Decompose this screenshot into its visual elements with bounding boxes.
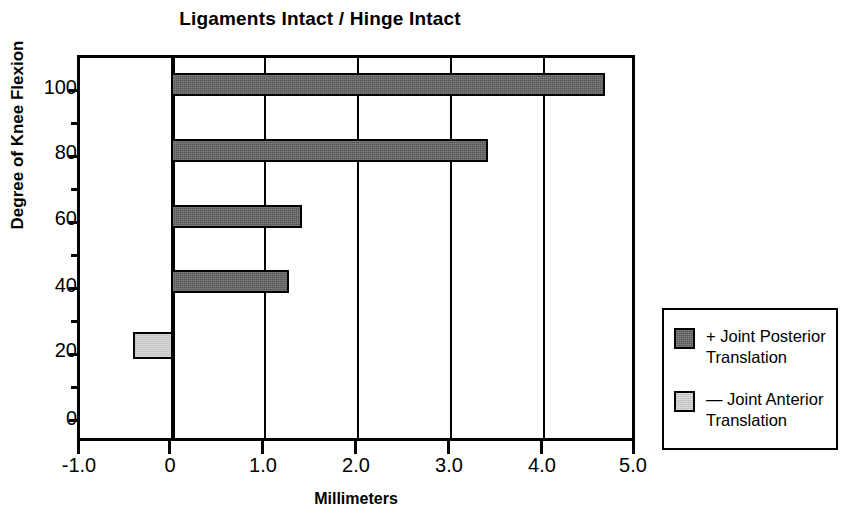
y-tick-70 [71, 188, 80, 191]
bar-flexion-20 [133, 332, 173, 359]
y-tick-label-60: 60 [29, 208, 77, 228]
x-tick-label-0: 0 [135, 455, 205, 475]
gridline-3 [450, 58, 452, 438]
x-tick-label-3.0: 3.0 [414, 455, 484, 475]
legend-item-anterior: — Joint Anterior Translation [674, 389, 830, 431]
x-tick-1.0 [261, 441, 264, 454]
x-tick--1.0 [77, 441, 80, 454]
y-tick-label-40: 40 [29, 275, 77, 295]
x-tick-label-4.0: 4.0 [507, 455, 577, 475]
x-tick-4.0 [540, 441, 543, 454]
x-tick-5.0 [632, 441, 635, 454]
bar-flexion-80 [171, 139, 488, 162]
y-tick-10 [71, 386, 80, 389]
x-tick-label-1.0: 1.0 [228, 455, 298, 475]
y-tick-label-80: 80 [29, 142, 77, 162]
legend-label-anterior-line2: Translation [706, 410, 823, 431]
y-tick-label-0: 0 [29, 408, 77, 428]
y-tick-20 [69, 353, 80, 356]
gridline-2 [357, 58, 359, 438]
gridline-4 [543, 58, 545, 438]
y-axis: 100 80 60 40 20 0 [20, 55, 77, 441]
x-axis: -1.0 0 1.0 2.0 3.0 4.0 5.0 [77, 441, 635, 455]
dark-gray-swatch-icon [674, 328, 695, 349]
y-tick-50 [71, 254, 80, 257]
bar-flexion-40 [171, 270, 289, 293]
plot-inner [80, 58, 632, 438]
legend-label-anterior-line1: — Joint Anterior [706, 389, 823, 410]
legend-label-posterior: + Joint Posterior Translation [706, 326, 826, 368]
gridline-0 [171, 58, 175, 438]
gridline-1 [264, 58, 266, 438]
y-tick-60 [69, 221, 80, 224]
plot-area [77, 55, 635, 441]
legend-label-posterior-line1: + Joint Posterior [706, 326, 826, 347]
x-tick-label-5.0: 5.0 [598, 455, 668, 475]
legend-label-anterior: — Joint Anterior Translation [706, 389, 823, 431]
x-tick-label-2.0: 2.0 [321, 455, 391, 475]
x-tick-2.0 [354, 441, 357, 454]
bar-flexion-100 [171, 73, 605, 96]
x-tick-0 [168, 441, 171, 454]
x-axis-title: Millimeters [77, 490, 635, 508]
x-tick-label--1.0: -1.0 [44, 455, 114, 475]
y-tick-label-20: 20 [29, 340, 77, 360]
y-tick-90 [71, 122, 80, 125]
light-gray-swatch-icon [674, 391, 695, 412]
y-tick-80 [69, 155, 80, 158]
y-tick-40 [69, 287, 80, 290]
y-tick-100 [69, 89, 80, 92]
y-tick-label-100: 100 [29, 77, 77, 97]
chart-title: Ligaments Intact / Hinge Intact [0, 8, 640, 30]
legend-item-posterior: + Joint Posterior Translation [674, 326, 830, 368]
y-tick-30 [71, 320, 80, 323]
x-tick-3.0 [447, 441, 450, 454]
y-tick-0 [69, 419, 80, 422]
bar-flexion-60 [171, 205, 302, 228]
legend: + Joint Posterior Translation — Joint An… [662, 308, 838, 450]
legend-label-posterior-line2: Translation [706, 347, 826, 368]
